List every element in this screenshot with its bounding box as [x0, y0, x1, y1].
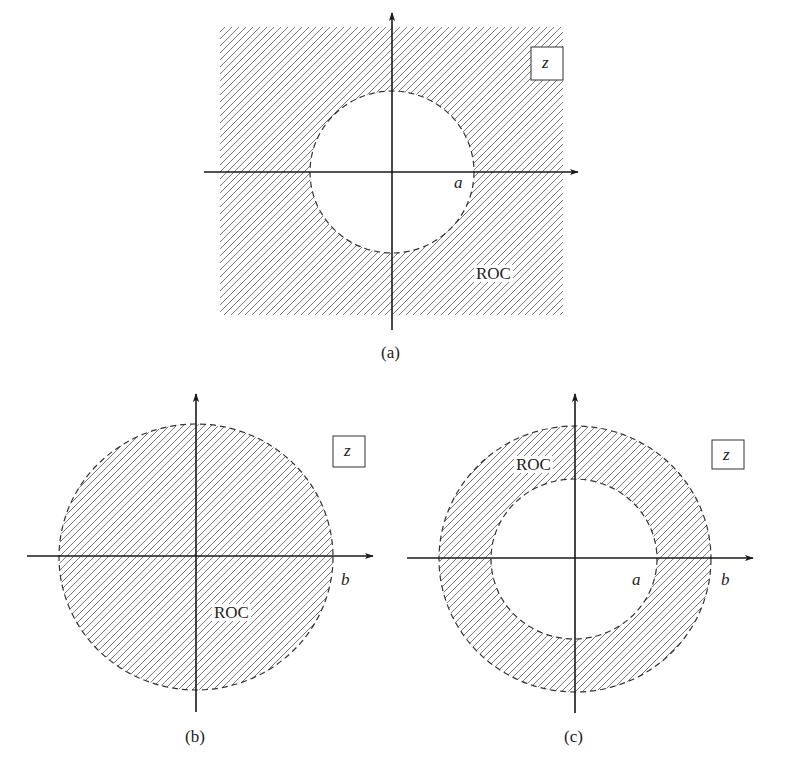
roc-diagram [0, 0, 785, 780]
z-plane-label: z [542, 54, 549, 71]
z-plane-label: z [344, 442, 351, 459]
radius-label-a: a [632, 571, 641, 588]
panel-a [204, 13, 578, 330]
caption-b: (b) [185, 728, 205, 745]
caption-a: (a) [381, 344, 400, 361]
radius-label-a: a [454, 174, 463, 191]
radius-label-b: b [341, 571, 350, 588]
roc-label: ROC [474, 265, 513, 282]
caption-c: (c) [564, 728, 583, 745]
roc-label: ROC [212, 604, 251, 621]
panel-b [27, 394, 373, 712]
z-plane-label: z [723, 446, 730, 463]
radius-label-b: b [721, 571, 730, 588]
roc-label: ROC [514, 456, 553, 473]
panel-c [407, 394, 753, 713]
